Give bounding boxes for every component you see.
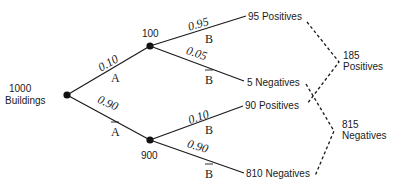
outcome-95-positives: 95 Positives [248, 11, 302, 22]
svg-text:B: B [205, 73, 213, 87]
node-100-count: 100 [142, 28, 159, 39]
positives-aggregation-bracket [307, 22, 339, 104]
event-b-given-a: B [205, 32, 213, 46]
node-900-count: 900 [141, 150, 158, 161]
event-a: A [111, 71, 120, 85]
prob-not-b-given-not-a: 0.90 [186, 136, 210, 156]
event-not-b-given-a: B [205, 70, 213, 87]
event-b-given-not-a: B [205, 123, 213, 137]
outcome-5-negatives: 5 Negatives [247, 77, 300, 88]
root-label: Buildings [5, 95, 46, 106]
root-node [63, 91, 70, 98]
root-count: 1000 [9, 83, 32, 94]
svg-text:B: B [205, 167, 213, 181]
total-positives-count: 185 [343, 50, 360, 61]
prob-b-given-a: 0.95 [186, 14, 210, 33]
svg-text:A: A [111, 125, 120, 139]
event-not-a: A [111, 122, 120, 139]
prob-not-a: 0.90 [96, 92, 121, 113]
negatives-aggregation-bracket [306, 84, 334, 176]
probability-tree-diagram: 1000 Buildings 0.10 A 0.90 A 100 900 0.9… [0, 0, 399, 191]
event-not-b-given-not-a: B [205, 164, 213, 181]
outcome-810-negatives: 810 Negatives [246, 168, 310, 179]
outcome-90-positives: 90 Positives [245, 100, 299, 111]
total-negatives-label: Negatives [342, 130, 386, 141]
total-negatives-count: 815 [342, 119, 359, 130]
total-positives-label: Positives [343, 61, 383, 72]
